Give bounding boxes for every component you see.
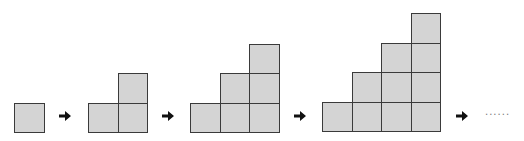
unit-square bbox=[14, 103, 45, 134]
unit-square bbox=[381, 72, 412, 103]
unit-square bbox=[411, 43, 442, 74]
unit-square bbox=[249, 44, 280, 75]
unit-square bbox=[118, 73, 149, 104]
unit-square bbox=[381, 102, 412, 133]
unit-square bbox=[322, 102, 353, 133]
right-arrow-icon bbox=[293, 109, 307, 123]
unit-square bbox=[220, 73, 251, 104]
right-arrow-icon bbox=[455, 109, 469, 123]
unit-square bbox=[411, 102, 442, 133]
unit-square bbox=[118, 103, 149, 134]
unit-square bbox=[249, 73, 280, 104]
unit-square bbox=[352, 102, 383, 133]
unit-square bbox=[411, 13, 442, 44]
unit-square bbox=[88, 103, 119, 134]
unit-square bbox=[190, 103, 221, 134]
continuation-dots: ...... bbox=[485, 106, 510, 117]
unit-square bbox=[352, 72, 383, 103]
unit-square bbox=[411, 72, 442, 103]
unit-square bbox=[381, 43, 412, 74]
right-arrow-icon bbox=[58, 109, 72, 123]
right-arrow-icon bbox=[161, 109, 175, 123]
unit-square bbox=[220, 103, 251, 134]
unit-square bbox=[249, 103, 280, 134]
